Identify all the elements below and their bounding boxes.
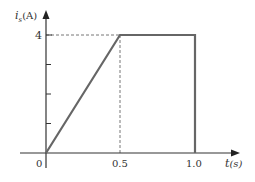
y-tick-label-4: 4 <box>35 29 42 42</box>
y-axis-arrow-icon <box>43 10 50 19</box>
y-axis-label: is(A) <box>15 9 37 24</box>
x-axis-arrow-icon <box>231 150 240 157</box>
x-tick-label-0: 0 <box>36 158 42 169</box>
current-waveform-chart: 4 0 0.5 1.0 is(A) t(s) <box>0 0 255 182</box>
x-axis-label-unit: (s) <box>229 158 242 169</box>
x-axis-label: t(s) <box>225 157 242 170</box>
x-tick-label-1.0: 1.0 <box>186 158 202 169</box>
y-axis-label-unit: (A) <box>22 10 37 21</box>
x-tick-label-0.5: 0.5 <box>112 158 128 169</box>
